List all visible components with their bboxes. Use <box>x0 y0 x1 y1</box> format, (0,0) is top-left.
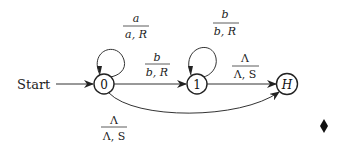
loop-0-edge <box>97 49 124 77</box>
svg-text:Λ, S: Λ, S <box>102 130 125 143</box>
transition-0-H-label: Λ Λ, S <box>101 114 127 143</box>
state-1: 1 <box>187 74 207 94</box>
svg-text:Λ, S: Λ, S <box>233 68 256 81</box>
svg-text:b: b <box>221 8 228 21</box>
end-diamond-icon <box>320 119 328 133</box>
svg-text:b, R: b, R <box>146 66 168 79</box>
svg-text:b: b <box>153 51 160 64</box>
transition-1-1-label: b b, R <box>213 8 239 38</box>
svg-text:b, R: b, R <box>214 25 236 38</box>
state-H: H <box>277 74 298 95</box>
svg-text:H: H <box>281 78 293 92</box>
svg-text:Λ: Λ <box>240 52 250 65</box>
svg-text:1: 1 <box>193 78 201 92</box>
svg-text:0: 0 <box>100 78 108 92</box>
svg-text:Λ: Λ <box>109 114 119 127</box>
transition-0-0-label: a a, R <box>123 12 149 41</box>
edge-0-H <box>109 92 279 113</box>
transition-0-1-label: b b, R <box>145 51 170 79</box>
transition-1-H-label: Λ Λ, S <box>232 52 259 81</box>
loop-1-edge <box>189 47 217 77</box>
start-label: Start <box>17 77 51 92</box>
svg-text:a: a <box>133 12 140 25</box>
state-0: 0 <box>94 74 114 94</box>
svg-text:a, R: a, R <box>125 28 147 41</box>
state-diagram: Start a a, R b b, R b b, R Λ Λ, S Λ Λ, S… <box>0 0 347 149</box>
